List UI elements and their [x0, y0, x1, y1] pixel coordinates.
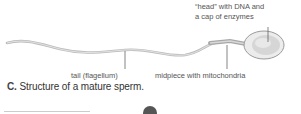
divider	[4, 111, 90, 112]
tail-label: tail (flagellum)	[71, 71, 118, 80]
caption-letter: C.	[7, 81, 17, 92]
midpiece-label: midpiece with mitochondria	[155, 71, 245, 80]
head-label-line1: “head” with DNA and	[195, 2, 264, 11]
sperm-diagram	[0, 0, 301, 114]
figure-caption: C. Structure of a mature sperm.	[7, 81, 144, 92]
head-label-line2: a cap of enzymes	[195, 12, 254, 21]
caption-text: Structure of a mature sperm.	[17, 81, 144, 92]
chevron-up-icon[interactable]	[143, 106, 157, 114]
